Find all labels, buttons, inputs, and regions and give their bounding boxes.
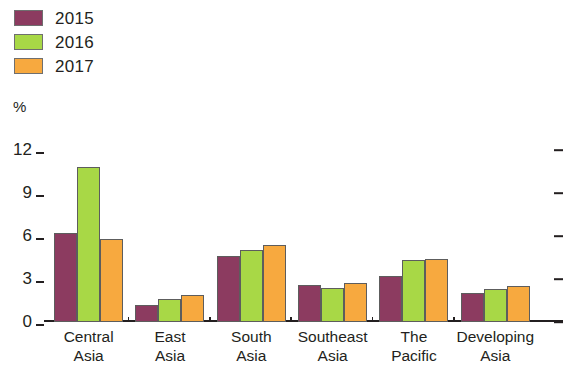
bar-chart-figure: 2015 2016 2017 % 036912 CentralAsiaEastA… xyxy=(0,0,585,366)
y-tick-mark xyxy=(36,238,44,240)
bar xyxy=(402,260,425,322)
y-tick-mark-right xyxy=(554,149,563,151)
bar xyxy=(217,256,240,322)
bar xyxy=(484,289,507,322)
y-tick-label: 9 xyxy=(23,183,32,203)
bar-group-bars xyxy=(461,140,530,322)
bar-group xyxy=(455,140,536,322)
y-tick-mark-right xyxy=(554,192,563,194)
bar xyxy=(379,276,402,322)
legend-swatch-2017 xyxy=(14,58,43,74)
x-axis-label: SouthAsia xyxy=(211,327,292,366)
legend-label-2017: 2017 xyxy=(55,58,94,75)
x-axis-label-line2: Asia xyxy=(48,346,129,365)
plot-area: 036912 xyxy=(48,140,536,322)
bar-group xyxy=(292,140,373,322)
x-axis-label: EastAsia xyxy=(129,327,210,366)
bar-group xyxy=(211,140,292,322)
x-axis-label-line1: Developing xyxy=(457,328,535,345)
x-axis-label-line2: Asia xyxy=(129,346,210,365)
y-tick-9: 9 xyxy=(23,183,48,203)
bar xyxy=(461,293,484,322)
y-tick-6: 6 xyxy=(23,226,48,246)
bar-group xyxy=(48,140,129,322)
x-axis-label-line1: Central xyxy=(64,328,114,345)
x-axis-label-line2: Asia xyxy=(455,346,536,365)
bar xyxy=(425,259,448,322)
y-tick-mark xyxy=(36,324,44,326)
bar-group-bars xyxy=(379,140,448,322)
y-axis-unit-label: % xyxy=(13,98,26,115)
legend-item-2016: 2016 xyxy=(14,30,234,54)
bar xyxy=(54,233,77,322)
bar xyxy=(298,285,321,322)
y-tick-label: 0 xyxy=(23,312,32,332)
y-tick-mark xyxy=(36,195,44,197)
bar-group xyxy=(373,140,454,322)
y-tick-mark-right xyxy=(554,235,563,237)
x-axis-label-line1: South xyxy=(231,328,272,345)
bar xyxy=(100,239,123,322)
bar xyxy=(135,305,158,322)
chart-legend: 2015 2016 2017 xyxy=(14,6,234,78)
x-axis-label-line1: Southeast xyxy=(298,328,368,345)
y-tick-mark-right xyxy=(554,278,563,280)
x-axis-label-line2: Asia xyxy=(211,346,292,365)
y-tick-label: 12 xyxy=(13,140,32,160)
x-axis-label-line1: The xyxy=(401,328,428,345)
y-tick-label: 3 xyxy=(23,269,32,289)
bar xyxy=(158,299,181,322)
bar-group-bars xyxy=(135,140,204,322)
bar-group-bars xyxy=(217,140,286,322)
x-axis-label: DevelopingAsia xyxy=(455,327,536,366)
y-tick-mark xyxy=(36,281,44,283)
bar xyxy=(321,288,344,322)
x-axis-labels: CentralAsiaEastAsiaSouthAsiaSoutheastAsi… xyxy=(48,327,536,366)
y-tick-3: 3 xyxy=(23,269,48,289)
bar xyxy=(507,286,530,322)
bar-groups xyxy=(48,140,536,322)
x-axis-label: CentralAsia xyxy=(48,327,129,366)
x-axis-label: SoutheastAsia xyxy=(292,327,373,366)
bar xyxy=(344,283,367,322)
legend-label-2016: 2016 xyxy=(55,34,94,51)
y-tick-label: 6 xyxy=(23,226,32,246)
x-axis-label-line2: Pacific xyxy=(373,346,454,365)
bar xyxy=(240,250,263,322)
y-tick-0: 0 xyxy=(23,312,48,332)
x-axis-label: ThePacific xyxy=(373,327,454,366)
bar xyxy=(77,167,100,322)
x-axis-label-line2: Asia xyxy=(292,346,373,365)
y-tick-mark xyxy=(36,152,44,154)
legend-label-2015: 2015 xyxy=(55,10,94,27)
bar-group xyxy=(129,140,210,322)
bar-group-bars xyxy=(54,140,123,322)
x-axis-label-line1: East xyxy=(154,328,185,345)
legend-swatch-2015 xyxy=(14,10,43,26)
y-tick-12: 12 xyxy=(13,140,48,160)
legend-item-2017: 2017 xyxy=(14,54,234,78)
legend-swatch-2016 xyxy=(14,34,43,50)
bar-group-bars xyxy=(298,140,367,322)
bar xyxy=(263,245,286,322)
legend-item-2015: 2015 xyxy=(14,6,234,30)
bar xyxy=(181,295,204,322)
